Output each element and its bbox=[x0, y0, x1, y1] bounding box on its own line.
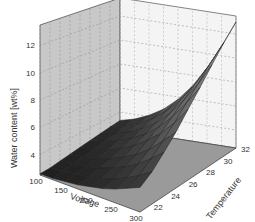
z-tick-label: 8 bbox=[31, 96, 36, 105]
y-tick-label: 26 bbox=[189, 180, 198, 189]
y-tick-label: 32 bbox=[241, 145, 250, 154]
surface-plot-canvas: 4681012100150200250300222426283032 Water… bbox=[0, 0, 255, 222]
z-tick-label: 10 bbox=[26, 69, 35, 78]
y-tick-label: 28 bbox=[206, 168, 215, 177]
y-tick-label: 24 bbox=[171, 192, 180, 201]
y-axis-label: Temperature bbox=[204, 175, 243, 221]
x-tick-label: 300 bbox=[129, 214, 143, 222]
surface-chart: 4681012100150200250300222426283032 Water… bbox=[0, 0, 255, 222]
z-axis-label: Water content [wt%] bbox=[9, 88, 19, 168]
y-tick-label: 30 bbox=[224, 157, 233, 166]
z-tick-label: 12 bbox=[26, 41, 35, 50]
x-tick-label: 250 bbox=[104, 205, 118, 214]
y-tick-label: 22 bbox=[154, 203, 163, 212]
x-tick-label: 150 bbox=[54, 186, 68, 195]
x-tick-label: 100 bbox=[29, 177, 43, 186]
z-tick-label: 6 bbox=[31, 123, 36, 132]
z-tick-label: 4 bbox=[31, 151, 36, 160]
